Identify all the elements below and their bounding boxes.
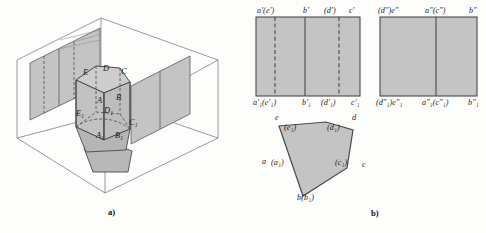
top-label-e: e: [275, 114, 279, 122]
caption-b: b): [371, 209, 379, 218]
label-C1-letter: C: [129, 118, 135, 127]
label-D1: D1: [104, 107, 113, 115]
front-label-b-prime: b′: [303, 7, 309, 15]
label-D: D: [103, 65, 109, 73]
label-B1-sub: 1: [120, 135, 123, 141]
front-label-a1e1-prime: a′₁(e′₁): [253, 99, 276, 107]
front-label-d-prime: (d′): [324, 7, 336, 15]
label-E: E: [83, 69, 88, 77]
figure-page: E D C A B D1 E1 C1 A1 B1 a) a′(e′) b′ (d…: [0, 0, 486, 233]
side-label-d1e1-dprime: (d″₁)e″₁: [376, 99, 403, 107]
label-B1: B1: [115, 132, 123, 140]
top-label-c1: (c₁): [335, 159, 347, 167]
top-label-d1: (d₁): [327, 124, 340, 132]
label-C1-sub: 1: [135, 122, 138, 128]
label-C: C: [121, 68, 127, 76]
top-label-b-b1: b(b₁): [297, 194, 314, 202]
front-label-b1-prime: b′₁: [302, 99, 311, 107]
label-A1: A1: [96, 132, 104, 140]
top-label-a1: (a₁): [271, 159, 284, 167]
top-label-e1: (e₁): [284, 124, 296, 132]
label-A: A: [97, 97, 102, 105]
side-label-b-dprime: b″: [469, 7, 477, 15]
front-view-rect: [256, 17, 360, 96]
side-label-b1-dprime: b″₁: [468, 99, 479, 107]
front-label-ae-prime: a′(e′): [257, 7, 274, 15]
side-label-de-dprime: (d″)e″: [378, 7, 399, 15]
front-label-c1-prime: c′₁: [351, 99, 360, 107]
label-E1: E1: [76, 110, 84, 118]
top-label-d: d: [352, 114, 356, 122]
caption-a: a): [108, 208, 115, 217]
pictorial-drawing: [0, 0, 243, 233]
top-label-a: a: [262, 158, 266, 166]
front-label-c-prime: c′: [349, 7, 355, 15]
front-label-d1-prime: (d′₁): [321, 99, 336, 107]
profile-projection-plane: [131, 56, 190, 144]
label-B: B: [116, 94, 121, 102]
side-label-ac-dprime: a″(c″): [425, 7, 446, 15]
label-D1-sub: 1: [110, 110, 113, 116]
label-C1: C1: [129, 119, 138, 127]
orthographic-views: [243, 0, 486, 233]
side-view-rect: [380, 17, 477, 96]
side-label-a1c1-dprime: a″₁(c″₁): [422, 99, 449, 107]
label-E1-sub: 1: [81, 113, 84, 119]
label-A1-sub: 1: [101, 135, 104, 141]
top-label-c: c: [362, 161, 366, 169]
